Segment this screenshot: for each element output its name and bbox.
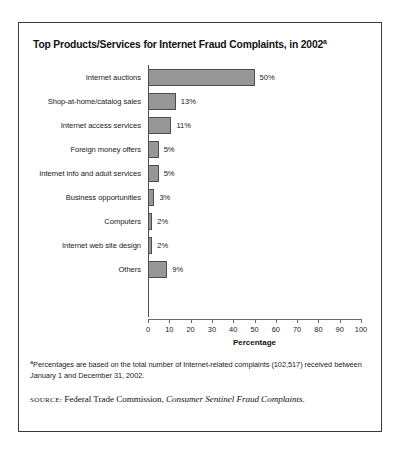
bar-row: Internet web site design2% (33, 233, 369, 257)
x-axis-tick-label: 100 (355, 325, 367, 334)
bar (148, 69, 255, 86)
bar-row: Computers2% (33, 209, 369, 233)
bar-value-label: 3% (159, 193, 170, 202)
x-axis-tick (212, 319, 213, 323)
x-axis: 0102030405060708090100 (148, 319, 361, 320)
bar-row: Internet info and adult services5% (33, 161, 369, 185)
bar-row: Internet access services11% (33, 113, 369, 137)
x-axis-tick-label: 40 (229, 325, 237, 334)
bar (148, 165, 159, 182)
x-axis-tick (169, 319, 170, 323)
bar-value-label: 13% (181, 97, 196, 106)
x-axis-tick (297, 319, 298, 323)
x-axis-tick (148, 319, 149, 323)
page-title: Top Products/Services for Internet Fraud… (33, 39, 369, 51)
x-axis-tick (361, 319, 362, 323)
bar-category-label: Shop-at-home/catalog sales (33, 97, 148, 106)
bar-value-label: 11% (176, 121, 191, 130)
figure-frame: Top Products/Services for Internet Fraud… (18, 22, 382, 432)
bar-row: Shop-at-home/catalog sales13% (33, 89, 369, 113)
source-terminator: . (303, 394, 305, 404)
source-publication: Consumer Sentinel Fraud Complaints (166, 394, 302, 404)
x-axis-tick-label: 60 (272, 325, 280, 334)
source-agency: Federal Trade Commission, (64, 394, 164, 404)
bar-row: Others9% (33, 257, 369, 281)
bar-track: 3% (148, 185, 369, 209)
footnote-text: Percentages are based on the total numbe… (30, 360, 362, 380)
bar-category-label: Others (33, 265, 148, 274)
source-line: SOURCE: Federal Trade Commission, Consum… (30, 394, 372, 404)
bar-category-label: Internet access services (33, 121, 148, 130)
bar-chart: Internet auctions50%Shop-at-home/catalog… (33, 65, 369, 317)
figure-title-text: Top Products/Services for Internet Fraud… (33, 39, 323, 50)
x-axis-tick (233, 319, 234, 323)
bar-track: 5% (148, 137, 369, 161)
bar-track: 13% (148, 89, 369, 113)
bar-value-label: 2% (157, 217, 168, 226)
bar (148, 237, 152, 254)
x-axis-tick (340, 319, 341, 323)
bar (148, 93, 176, 110)
bar-track: 2% (148, 209, 369, 233)
bar-rows: Internet auctions50%Shop-at-home/catalog… (33, 65, 369, 281)
bar (148, 117, 171, 134)
bar-row: Internet auctions50% (33, 65, 369, 89)
bar-row: Business opportunities3% (33, 185, 369, 209)
bar-category-label: Foreign money offers (33, 145, 148, 154)
footnote: aPercentages are based on the total numb… (30, 360, 372, 381)
x-axis-tick-label: 0 (146, 325, 150, 334)
bar-category-label: Business opportunities (33, 193, 148, 202)
x-axis-title: Percentage (148, 338, 361, 347)
bar-track: 2% (148, 233, 369, 257)
bar-value-label: 5% (164, 169, 175, 178)
bar (148, 213, 152, 230)
bar (148, 189, 154, 206)
bar (148, 261, 167, 278)
x-axis-tick (191, 319, 192, 323)
x-axis-tick-label: 50 (250, 325, 258, 334)
figure-title-footnote-marker: a (323, 38, 327, 45)
bar-value-label: 5% (164, 145, 175, 154)
bar-category-label: Internet info and adult services (33, 169, 148, 178)
x-axis-tick (318, 319, 319, 323)
bar-category-label: Internet web site design (33, 241, 148, 250)
x-axis-tick-label: 70 (293, 325, 301, 334)
bar-value-label: 9% (172, 265, 183, 274)
bar-category-label: Computers (33, 217, 148, 226)
x-axis-tick-label: 20 (186, 325, 194, 334)
bar-category-label: Internet auctions (33, 73, 148, 82)
bar-row: Foreign money offers5% (33, 137, 369, 161)
x-axis-tick (255, 319, 256, 323)
bar-value-label: 2% (157, 241, 168, 250)
bar (148, 141, 159, 158)
x-axis-tick-label: 80 (314, 325, 322, 334)
x-axis-tick (276, 319, 277, 323)
x-axis-tick-label: 10 (165, 325, 173, 334)
bar-track: 5% (148, 161, 369, 185)
x-axis-tick-label: 90 (336, 325, 344, 334)
source-label: SOURCE: (30, 396, 62, 404)
x-axis-tick-label: 30 (208, 325, 216, 334)
bar-track: 9% (148, 257, 369, 281)
bar-value-label: 50% (260, 73, 275, 82)
bar-track: 11% (148, 113, 369, 137)
bar-track: 50% (148, 65, 369, 89)
